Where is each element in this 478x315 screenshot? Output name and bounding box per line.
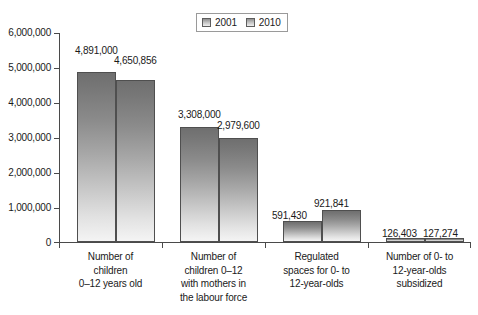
category-label-children-mothers-labour-force: Number of children 0–12 with mothers in … [162,250,265,304]
category-label-subsidized: Number of 0- to 12-year-olds subsidized [368,250,471,291]
legend-item-2001: 2001 [202,18,237,28]
data-label-2010-g2: 2,979,600 [217,121,260,131]
category-line: spaces for 0- to [265,264,368,278]
y-axis-label: 3,000,000 [8,133,51,143]
category-line: 12-year-olds [265,277,368,291]
legend-label-2001: 2001 [215,18,237,28]
bar-2010-regulated-spaces [322,210,361,242]
chart-legend: 2001 2010 [196,13,288,32]
category-line: children [59,264,162,278]
y-axis-label: 4,000,000 [8,98,51,108]
x-axis-tick [368,243,369,248]
category-line: with mothers in [162,277,265,291]
category-line: the labour force [162,291,265,305]
category-label-regulated-spaces: Regulated spaces for 0- to 12-year-olds [265,250,368,291]
data-label-2001-g3: 591,430 [272,211,307,221]
y-axis-label: 6,000,000 [8,28,51,38]
y-axis-labels: 6,000,000 5,000,000 4,000,000 3,000,000 … [0,0,51,315]
y-axis-label: 5,000,000 [8,63,51,73]
data-label-2010-g4: 127,274 [423,229,458,239]
legend-item-2010: 2010 [246,18,281,28]
data-label-2001-g4: 126,403 [382,229,417,239]
bar-2001-regulated-spaces [283,221,322,242]
category-line: 12-year-olds [368,264,471,278]
category-line: Regulated [265,250,368,264]
data-label-2010-g1: 4,650,856 [114,56,157,66]
category-line: children 0–12 [162,264,265,278]
y-axis-label: 2,000,000 [8,168,51,178]
bar-2001-children-0-12 [77,72,116,242]
legend-label-2010: 2010 [259,18,281,28]
data-label-2001-g2: 3,308,000 [178,110,221,120]
legend-swatch-icon [246,18,255,27]
x-axis-tick [59,243,60,248]
y-axis-label: 1,000,000 [8,203,51,213]
x-axis-tick [265,243,266,248]
category-line: 0–12 years old [59,277,162,291]
category-line: Number of 0- to [368,250,471,264]
y-axis-label: 0 [46,238,51,248]
x-axis-tick [162,243,163,248]
data-label-2010-g3: 921,841 [314,199,349,209]
bar-2010-children-0-12 [116,80,155,242]
bar-chart: 2001 2010 6,000,000 5,000,000 4,000,000 … [0,0,478,315]
category-line: Number of [162,250,265,264]
bar-2001-children-mothers-labour-force [180,127,219,242]
data-label-2001-g1: 4,891,000 [75,46,118,56]
category-label-children-0-12: Number of children 0–12 years old [59,250,162,291]
x-axis-tick [470,243,471,248]
legend-swatch-icon [202,18,211,27]
category-line: subsidized [368,277,471,291]
bar-2010-children-mothers-labour-force [219,138,258,242]
category-line: Number of [59,250,162,264]
